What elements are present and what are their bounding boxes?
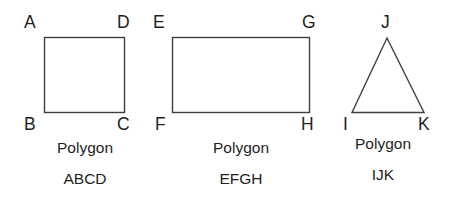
caption-line-vertices: IJK <box>318 167 448 183</box>
caption-line-vertices: ABCD <box>15 171 155 187</box>
vertex-label-b: B <box>24 116 36 134</box>
vertex-label-e: E <box>153 14 165 32</box>
caption-line-word: Polygon <box>166 140 316 156</box>
vertex-label-a: A <box>24 14 36 32</box>
vertex-label-d: D <box>117 14 130 32</box>
triangle-ijk-outline <box>352 38 424 113</box>
caption-line-word: Polygon <box>318 136 448 152</box>
vertex-label-f: F <box>155 116 166 134</box>
vertex-label-i: I <box>343 116 348 134</box>
vertex-label-h: H <box>301 116 314 134</box>
vertex-label-k: K <box>418 116 430 134</box>
caption-polygon-efgh: Polygon EFGH <box>166 140 316 186</box>
caption-line-vertices: EFGH <box>166 171 316 187</box>
polygon-diagram: A D B C Polygon ABCD E G F H Polygon EFG… <box>0 0 461 203</box>
caption-polygon-ijk: Polygon IJK <box>318 136 448 182</box>
vertex-label-j: J <box>381 14 390 32</box>
vertex-label-c: C <box>117 116 130 134</box>
vertex-label-g: G <box>302 14 316 32</box>
caption-line-word: Polygon <box>15 140 155 156</box>
rectangle-efgh-outline <box>173 38 310 113</box>
square-abcd-outline <box>45 38 125 113</box>
caption-polygon-abcd: Polygon ABCD <box>15 140 155 186</box>
